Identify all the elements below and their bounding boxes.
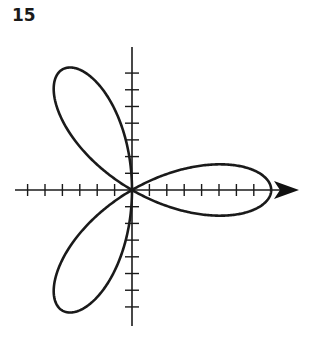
polar-rose-chart <box>0 0 312 351</box>
axes <box>15 47 286 326</box>
